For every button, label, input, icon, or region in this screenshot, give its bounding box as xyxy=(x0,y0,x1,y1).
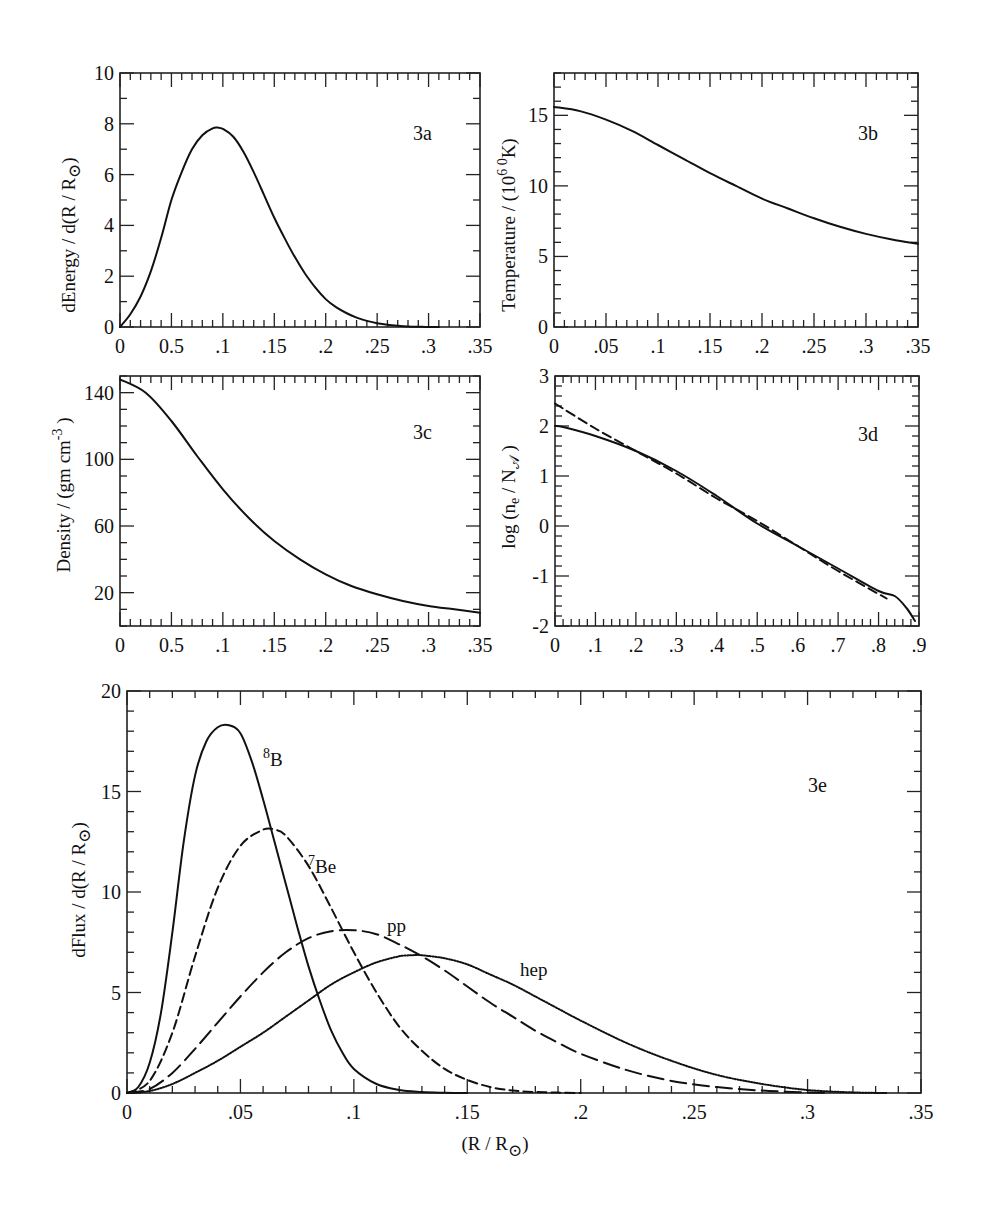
y-axis-label-3d: log (ne / N𝒜 ) xyxy=(498,445,522,549)
panel-tag-3b: 3b xyxy=(858,122,878,144)
curve-label-7be: 7Be xyxy=(308,853,336,877)
figure-labels: 3a 3b 3c 3d 3e dEnergy / d(R / R⊙) Tempe… xyxy=(0,0,983,1212)
curve-label-hep: hep xyxy=(520,959,547,980)
panel-tag-3c: 3c xyxy=(413,421,432,443)
x-axis-label-3e: (R / R⊙) xyxy=(461,1133,528,1160)
y-axis-label-3b: Temperature / (106 0K) xyxy=(495,138,520,311)
y-axis-label-3e: dFlux / d(R / R⊙) xyxy=(68,822,94,958)
panel-tag-3a: 3a xyxy=(413,122,432,144)
y-axis-label-3a: dEnergy / d(R / R⊙) xyxy=(58,157,84,312)
curve-label-pp: pp xyxy=(387,915,406,936)
panel-tag-3e: 3e xyxy=(808,774,827,796)
curve-label-8b: 8B xyxy=(263,746,283,770)
panel-tag-3d: 3d xyxy=(858,423,878,445)
y-axis-label-3c: Density / (gm cm-3 ) xyxy=(50,417,75,572)
